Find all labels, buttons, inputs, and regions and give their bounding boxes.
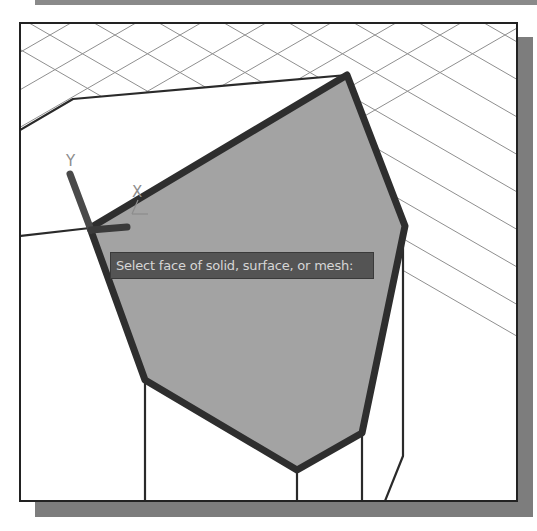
- top-shadow-band: [35, 0, 537, 5]
- ucs-y-axis: [70, 174, 91, 230]
- drawing-viewport[interactable]: Y X Select face of solid, surface, or me…: [19, 22, 518, 502]
- ucs-y-label: Y: [65, 152, 76, 170]
- model-edge: [20, 228, 90, 236]
- ucs-x-axis: [91, 227, 127, 230]
- command-prompt-tooltip: Select face of solid, surface, or mesh:: [110, 252, 374, 279]
- ucs-x-label: X: [132, 183, 142, 201]
- command-prompt-text: Select face of solid, surface, or mesh:: [116, 258, 353, 273]
